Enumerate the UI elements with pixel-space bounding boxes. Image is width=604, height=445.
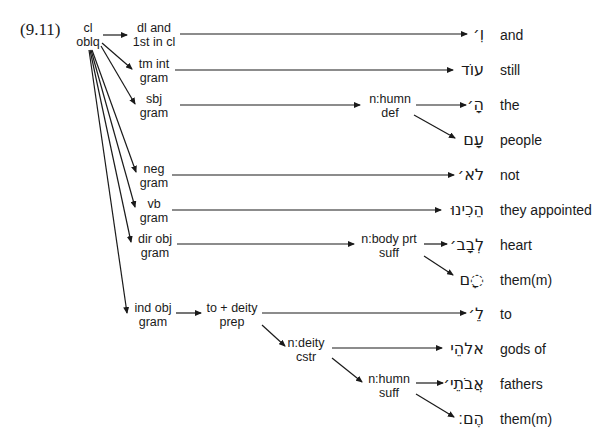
hebrew-word: אלהֵי <box>450 340 484 358</box>
edge-ndeity-nhumn <box>332 358 362 382</box>
node-dl: dl and 1st in cl <box>133 21 175 49</box>
hebrew-word: עָם <box>463 131 484 149</box>
edge-root-vb <box>91 50 135 207</box>
edge-nbody-them <box>424 256 453 275</box>
hebrew-word: עוֹד <box>461 61 484 79</box>
hebrew-word: לֹא׳ <box>458 166 484 184</box>
edge-root-indobj <box>89 50 127 313</box>
node-tm-int: tm int gram <box>139 57 170 85</box>
node-ind-obj: ind obj gram <box>135 301 172 329</box>
gloss: them(m) <box>500 272 552 288</box>
node-neg: neg gram <box>140 162 168 190</box>
hebrew-word: וְ׳ <box>473 25 484 43</box>
node-root-line2: oblq <box>76 35 100 49</box>
gloss: not <box>500 167 519 183</box>
hebrew-word: לֵ׳ <box>468 305 484 323</box>
gloss: still <box>500 62 520 78</box>
gloss: the <box>500 97 519 113</box>
node-nhumn-suff: n:humn suff <box>368 372 410 400</box>
gloss: people <box>500 132 542 148</box>
node-nbody-prt: n:body prt suff <box>361 232 417 260</box>
hebrew-word: ◌ָם <box>459 271 484 289</box>
hebrew-word: הֵכִינוּ <box>451 201 484 219</box>
node-ndeity: n:deity cstr <box>288 336 325 364</box>
edge-root-sbj <box>101 46 135 104</box>
example-number: (9.11) <box>20 20 60 40</box>
node-root: cl oblq <box>76 21 100 49</box>
gloss: fathers <box>500 376 543 392</box>
node-sbj: sbj gram <box>140 92 168 120</box>
node-dir-obj: dir obj gram <box>138 232 172 260</box>
edge-nhumn-them <box>416 394 454 417</box>
node-to-deity: to + deity prep <box>206 301 257 329</box>
gloss: to <box>500 306 512 322</box>
gloss: and <box>500 27 523 43</box>
edge-todeity-ndeity <box>262 325 285 346</box>
hebrew-word: אֲבֹתֵי׳ <box>443 375 484 393</box>
gloss: heart <box>500 237 532 253</box>
gloss: them(m) <box>500 411 552 427</box>
edge-nhumn-people <box>414 115 455 138</box>
hebrew-word: לְבָב׳ <box>450 236 484 254</box>
gloss: they appointed <box>500 202 592 218</box>
hebrew-word: הָ׳ <box>467 96 484 114</box>
node-nhumn-def: n:humn def <box>369 92 411 120</box>
edge-root-dirobj <box>90 50 131 242</box>
gloss: gods of <box>500 341 546 357</box>
hebrew-word: הֶם׃ <box>458 410 484 428</box>
node-root-line1: cl <box>76 21 100 35</box>
node-vb: vb gram <box>140 197 168 225</box>
